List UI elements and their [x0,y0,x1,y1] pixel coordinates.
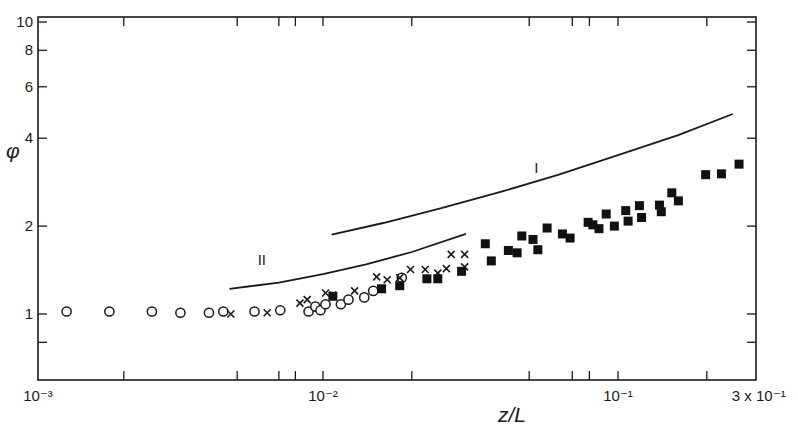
x-tick-label: 3 x 10⁻¹ [732,387,786,404]
data-points [62,160,744,318]
filled-square-point [594,224,603,233]
cross-point [264,309,271,316]
filled-square-point [422,274,431,283]
filled-square-point [528,235,537,244]
filled-square-point [517,231,526,240]
chart-plot-area: 10⁻³10⁻²10⁻¹3 x 10⁻¹1246810 III z/L φ [0,0,798,431]
open-circle-point [105,307,114,316]
filled-square-point [602,210,611,219]
cross-point [373,273,380,280]
filled-square-point [328,292,337,301]
open-circle-point [176,308,185,317]
filled-square-point [487,256,496,265]
cross-point [304,296,311,303]
open-circle-point [276,306,285,315]
cross-point [407,266,414,273]
cross-point [296,300,303,307]
cross-point [461,251,468,258]
open-circle-point [369,286,378,295]
filled-square-point [637,213,646,222]
y-tick-label: 10 [16,13,33,30]
y-axis-label: φ [6,139,20,162]
x-tick-label: 10⁻³ [23,387,53,404]
filled-square-point [701,170,710,179]
plot-frame [38,17,756,380]
chart: 10⁻³10⁻²10⁻¹3 x 10⁻¹1246810 III z/L φ [0,0,798,431]
cross-point [422,266,429,273]
cross-point [351,287,358,294]
open-circle-point [321,300,330,309]
filled-square-point [395,281,404,290]
x-tick-label: 10⁻¹ [603,387,633,404]
open-circle-point [360,293,369,302]
axis-ticks: 10⁻³10⁻²10⁻¹3 x 10⁻¹1246810 [16,13,785,404]
open-circle-point [62,307,71,316]
filled-square-point [717,169,726,178]
y-tick-label: 2 [25,217,33,234]
y-tick-label: 1 [25,305,33,322]
curve-label-ii: II [258,251,266,268]
filled-square-point [621,206,630,215]
filled-square-point [657,207,666,216]
filled-square-point [377,284,386,293]
x-tick-label: 10⁻² [308,387,338,404]
filled-square-point [457,267,466,276]
y-tick-label: 4 [25,129,33,146]
filled-square-point [610,222,619,231]
filled-square-point [674,196,683,205]
curve-label-i: I [534,159,538,176]
filled-square-point [481,239,490,248]
filled-square-point [558,229,567,238]
cross-point [322,290,329,297]
filled-square-point [624,217,633,226]
y-tick-label: 8 [25,41,33,58]
filled-square-point [543,224,552,233]
filled-square-point [566,234,575,243]
filled-square-point [513,248,522,257]
filled-square-point [735,160,744,169]
cross-point [443,265,450,272]
filled-square-point [504,246,513,255]
filled-square-point [433,274,442,283]
x-axis-label: z/L [497,403,526,426]
cross-point [227,311,234,318]
open-circle-point [204,308,213,317]
open-circle-point [219,307,228,316]
y-tick-label: 6 [25,78,33,95]
open-circle-point [250,307,259,316]
filled-square-point [533,245,542,254]
open-circle-point [344,295,353,304]
filled-square-point [667,188,676,197]
filled-square-point [635,201,644,210]
curve-i [332,114,733,235]
cross-point [448,251,455,258]
open-circle-point [147,307,156,316]
cross-point [384,276,391,283]
